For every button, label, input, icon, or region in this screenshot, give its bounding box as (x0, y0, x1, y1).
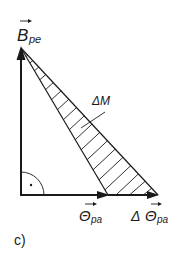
panel-label: c) (14, 232, 26, 248)
vertical-vector-arrow (17, 46, 26, 196)
horizontal-vector-arrow (20, 191, 110, 199)
label-b-pe: B pe (17, 19, 41, 45)
svg-text:pa: pa (90, 214, 103, 225)
label-theta-pa: Θ pa (79, 202, 103, 225)
hatched-triangle (20, 44, 185, 212)
vector-diagram: B pe ΔM Θ pa Δ Θ pa c) (0, 0, 185, 259)
label-delta-m: ΔM (91, 94, 110, 108)
delta-vector-arrow (108, 191, 159, 199)
svg-text:B: B (17, 26, 28, 45)
svg-text:pa: pa (156, 214, 169, 225)
svg-text:pe: pe (28, 33, 41, 45)
label-delta-theta-pa: Δ Θ pa (130, 202, 169, 225)
right-angle-marker (21, 172, 44, 195)
svg-text:Θ: Θ (79, 207, 91, 224)
svg-text:Θ: Θ (145, 207, 157, 224)
svg-text:Δ: Δ (130, 208, 140, 224)
